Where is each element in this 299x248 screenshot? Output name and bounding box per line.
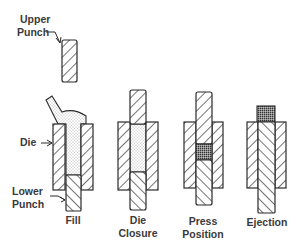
stage-ejection	[247, 106, 286, 213]
stage-die-closure	[118, 90, 158, 210]
upper-punch-label: UpperPunch	[17, 13, 50, 38]
compaction-diagram: UpperPunch Die LowerPunch Fi	[0, 0, 299, 248]
caption-ejection: Ejection	[247, 216, 288, 228]
caption-die-closure: DieClosure	[118, 214, 157, 239]
lower-punch-label: LowerPunch	[12, 185, 44, 210]
caption-fill: Fill	[65, 214, 80, 226]
upper-punch-standalone	[62, 40, 77, 82]
die-leader-arrow	[41, 140, 52, 146]
caption-press-position: PressPosition	[182, 215, 223, 240]
die-label: Die	[20, 136, 37, 148]
stage-fill	[46, 96, 93, 211]
lower-punch-leader-arrow	[50, 196, 65, 202]
stage-press-position	[184, 92, 223, 205]
